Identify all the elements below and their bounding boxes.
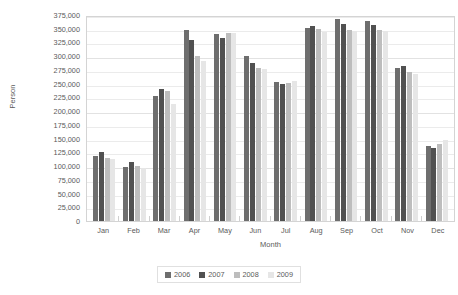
y-tick-label: 150,000 [26,136,80,143]
bar [93,156,98,221]
bar [153,96,158,221]
y-tick-label: 225,000 [26,94,80,101]
bar-chart: Person 375,000350,000325,000300,000275,0… [0,0,458,295]
bar-cluster [392,17,422,221]
legend-item[interactable]: 2009 [268,270,293,279]
x-tick-label: Jan [88,226,118,235]
bar [135,166,140,221]
legend-swatch-icon [268,272,274,278]
bar [110,159,115,221]
bar [316,29,321,221]
legend-label: 2006 [174,270,190,279]
y-tick-label: 200,000 [26,108,80,115]
x-tick-label: Apr [179,226,209,235]
bar [165,91,170,221]
bar-cluster [119,17,149,221]
y-axis-title: Person [8,67,17,127]
bar [220,38,225,221]
y-tick-label: 350,000 [26,26,80,33]
y-tick-label: 100,000 [26,163,80,170]
bar [310,26,315,221]
bar [377,30,382,221]
x-tick-label: Jul [271,226,301,235]
legend-item[interactable]: 2008 [234,270,259,279]
legend-swatch-icon [199,272,205,278]
bar [407,72,412,221]
bar [123,167,128,221]
x-tick-label: May [210,226,240,235]
bar [426,146,431,221]
legend-label: 2009 [277,270,293,279]
bar [347,30,352,221]
bar-cluster [301,17,331,221]
y-tick-label: 325,000 [26,39,80,46]
bar [195,56,200,221]
bar [280,84,285,221]
x-tick-label: Jun [240,226,270,235]
bar [99,152,104,221]
bar [256,68,261,221]
bar [201,61,206,221]
bar [413,74,418,221]
y-tick-label: 300,000 [26,53,80,60]
x-tick-label: Nov [392,226,422,235]
bar [141,168,146,221]
bar [159,89,164,221]
bar-cluster [150,17,180,221]
bar [105,158,110,221]
legend-label: 2008 [243,270,259,279]
bar [184,30,189,221]
bar [226,33,231,221]
y-tick-label: 0 [26,218,80,225]
bar [341,24,346,221]
x-axis-tick-labels: JanFebMarAprMayJunJulAugSepOctNovDec [86,226,455,235]
bar-cluster [422,17,452,221]
bar [401,66,406,221]
y-tick-label: 50,000 [26,191,80,198]
bar [274,82,279,221]
bar [365,21,370,222]
x-axis-title: Month [86,240,455,249]
bar [443,140,448,221]
x-tick-label: Sep [331,226,361,235]
bar [189,40,194,221]
x-tick-label: Feb [118,226,148,235]
bar [383,31,388,221]
y-tick-label: 75,000 [26,177,80,184]
y-tick-label: 275,000 [26,67,80,74]
bar [335,19,340,221]
legend-swatch-icon [165,272,171,278]
bar [262,69,267,221]
legend: 2006200720082009 [0,266,458,283]
bar [250,63,255,221]
y-axis-tick-labels: 375,000350,000325,000300,000275,000250,0… [24,0,80,295]
bar [129,162,134,221]
legend-item[interactable]: 2006 [165,270,190,279]
legend-item[interactable]: 2007 [199,270,224,279]
bar [371,25,376,221]
bar [437,144,442,221]
bar [395,68,400,221]
bar-cluster [361,17,391,221]
y-tick-label: 250,000 [26,81,80,88]
legend-swatch-icon [234,272,240,278]
bar [352,31,357,221]
y-tick-label: 125,000 [26,149,80,156]
bar-cluster [89,17,119,221]
x-tick-label: Oct [362,226,392,235]
bar [214,34,219,221]
bar [305,28,310,221]
bar [244,56,249,221]
bar [171,104,176,221]
bar [231,33,236,221]
bar-cluster [210,17,240,221]
bar [431,148,436,221]
y-tick-label: 25,000 [26,204,80,211]
legend-label: 2007 [208,270,224,279]
bar [286,83,291,221]
bar [292,81,297,221]
x-tick-label: Dec [423,226,453,235]
legend-inner: 2006200720082009 [157,266,301,283]
y-tick-label: 175,000 [26,122,80,129]
bar-clusters [87,17,454,221]
